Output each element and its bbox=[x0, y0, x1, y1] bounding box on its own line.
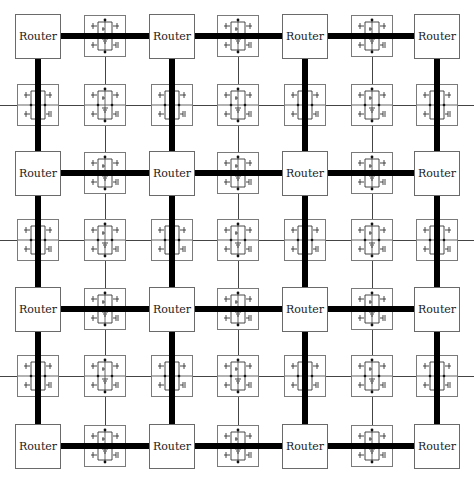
router-label: Router bbox=[286, 167, 324, 180]
router-node: Router bbox=[15, 14, 61, 59]
router-node: Router bbox=[282, 424, 328, 469]
router-node: Router bbox=[282, 287, 328, 332]
router-label: Router bbox=[19, 303, 57, 316]
router-link-horizontal bbox=[328, 33, 414, 39]
router-link-vertical bbox=[434, 59, 440, 151]
router-node: Router bbox=[414, 14, 460, 59]
router-node: Router bbox=[414, 287, 460, 332]
router-link-horizontal bbox=[195, 306, 282, 312]
router-link-horizontal bbox=[328, 443, 414, 449]
router-link-vertical bbox=[35, 332, 41, 424]
router-label: Router bbox=[418, 303, 456, 316]
router-node: Router bbox=[282, 151, 328, 196]
router-link-horizontal bbox=[328, 306, 414, 312]
router-label: Router bbox=[418, 440, 456, 453]
router-label: Router bbox=[153, 303, 191, 316]
sram-cell bbox=[351, 355, 393, 397]
router-link-vertical bbox=[302, 196, 308, 287]
router-link-vertical bbox=[35, 196, 41, 287]
router-link-horizontal bbox=[61, 306, 149, 312]
router-link-horizontal bbox=[195, 170, 282, 176]
router-link-vertical bbox=[169, 196, 175, 287]
router-link-vertical bbox=[302, 332, 308, 424]
router-node: Router bbox=[149, 151, 195, 196]
router-link-vertical bbox=[169, 59, 175, 151]
router-link-horizontal bbox=[328, 170, 414, 176]
router-link-vertical bbox=[434, 196, 440, 287]
sram-cell bbox=[217, 219, 259, 261]
router-link-horizontal bbox=[61, 443, 149, 449]
router-label: Router bbox=[286, 440, 324, 453]
router-link-vertical bbox=[302, 59, 308, 151]
router-node: Router bbox=[15, 151, 61, 196]
router-label: Router bbox=[153, 167, 191, 180]
router-node: Router bbox=[149, 14, 195, 59]
router-link-vertical bbox=[169, 332, 175, 424]
router-label: Router bbox=[153, 30, 191, 43]
router-node: Router bbox=[414, 151, 460, 196]
router-node: Router bbox=[149, 287, 195, 332]
router-label: Router bbox=[19, 167, 57, 180]
sram-cell bbox=[84, 219, 126, 261]
router-node: Router bbox=[149, 424, 195, 469]
sram-cell bbox=[351, 84, 393, 126]
router-label: Router bbox=[418, 167, 456, 180]
router-node: Router bbox=[15, 287, 61, 332]
router-link-vertical bbox=[434, 332, 440, 424]
sram-cell bbox=[351, 219, 393, 261]
router-node: Router bbox=[282, 14, 328, 59]
router-link-horizontal bbox=[195, 33, 282, 39]
router-link-vertical bbox=[35, 59, 41, 151]
router-label: Router bbox=[286, 30, 324, 43]
sram-cell bbox=[217, 84, 259, 126]
router-label: Router bbox=[19, 440, 57, 453]
noc-memory-grid-diagram: Router Router bbox=[0, 0, 474, 480]
router-label: Router bbox=[418, 30, 456, 43]
sram-cell bbox=[84, 84, 126, 126]
router-label: Router bbox=[286, 303, 324, 316]
router-link-horizontal bbox=[61, 33, 149, 39]
sram-cell bbox=[84, 355, 126, 397]
router-label: Router bbox=[153, 440, 191, 453]
router-node: Router bbox=[15, 424, 61, 469]
router-link-horizontal bbox=[195, 443, 282, 449]
sram-cell bbox=[217, 355, 259, 397]
router-link-horizontal bbox=[61, 170, 149, 176]
router-node: Router bbox=[414, 424, 460, 469]
router-label: Router bbox=[19, 30, 57, 43]
